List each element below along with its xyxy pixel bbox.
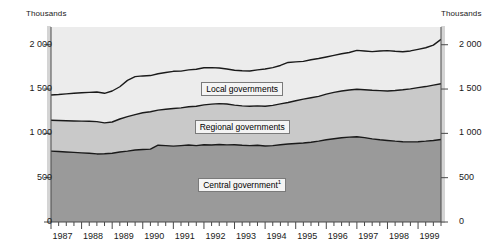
x-axis-tick-1995: 1995	[297, 231, 317, 241]
x-axis-tick-1992: 1992	[205, 231, 225, 241]
y-axis-tick-right-0: 0	[459, 216, 464, 226]
series-label-regional-governments: Regional governments	[195, 120, 290, 134]
y-axis-tick-right-2000: 2 000	[459, 39, 482, 49]
y-axis-unit-label-left: Thousands	[26, 9, 66, 18]
series-label-central-government: Central government1	[198, 178, 286, 192]
x-axis-tick-1988: 1988	[83, 231, 103, 241]
x-axis-tick-1993: 1993	[236, 231, 256, 241]
x-axis-tick-1989: 1989	[114, 231, 134, 241]
x-axis-tick-1991: 1991	[175, 231, 195, 241]
x-axis-tick-1994: 1994	[267, 231, 287, 241]
x-axis-tick-1997: 1997	[358, 231, 378, 241]
y-axis-tick-right-1000: 1 000	[459, 127, 482, 137]
y-axis-tick-left-0: 0	[47, 216, 52, 226]
x-axis-tick-1990: 1990	[144, 231, 164, 241]
x-axis-tick-1999: 1999	[420, 231, 440, 241]
footnote-marker: 1	[278, 179, 281, 185]
y-axis-tick-left-1000: 1 000	[29, 127, 52, 137]
x-axis-tick-1998: 1998	[389, 231, 409, 241]
x-axis-tick-1987: 1987	[52, 231, 72, 241]
y-axis-unit-label-right: Thousands	[441, 9, 481, 18]
stacked-area-chart: Thousands Thousands 005005001 0001 0001 …	[0, 0, 494, 252]
y-axis-tick-right-500: 500	[459, 172, 474, 182]
y-axis-tick-left-1500: 1 500	[29, 83, 52, 93]
series-label-central-text: Central government	[203, 180, 278, 190]
series-label-local-governments: Local governments	[201, 82, 283, 96]
x-axis-tick-1996: 1996	[328, 231, 348, 241]
y-axis-tick-right-1500: 1 500	[459, 83, 482, 93]
y-axis-tick-left-2000: 2 000	[29, 39, 52, 49]
y-axis-tick-left-500: 500	[37, 172, 52, 182]
